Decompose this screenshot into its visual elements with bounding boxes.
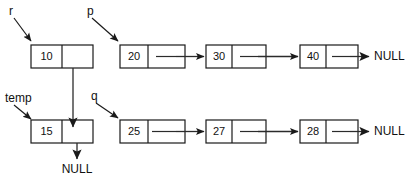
node-40-value: 40 — [307, 50, 319, 62]
node-30-value: 30 — [213, 50, 225, 62]
node-10: 10 — [31, 45, 93, 68]
bottom-null-label: NULL — [374, 124, 405, 138]
pointer-label-q: q — [91, 89, 98, 103]
node-15-value: 15 — [40, 125, 52, 137]
top-null-label: NULL — [374, 49, 405, 63]
node-20: 20 — [120, 45, 185, 68]
node-25-value: 25 — [128, 125, 140, 137]
diagram-canvas: 10 20 30 40 NULL — [0, 0, 413, 182]
node-20-value: 20 — [128, 50, 140, 62]
node-15: 15 — [31, 120, 93, 143]
node-25: 25 — [120, 120, 185, 143]
pointer-label-temp: temp — [5, 91, 32, 105]
node-27: 27 — [206, 120, 266, 143]
node-30: 30 — [206, 45, 266, 68]
node-28-value: 28 — [307, 125, 319, 137]
pointer-arrow-p — [92, 18, 118, 41]
pointer-label-r: r — [9, 4, 13, 18]
node-40: 40 — [300, 45, 358, 68]
linked-list-diagram: 10 20 30 40 NULL — [0, 0, 413, 182]
pointer-label-p: p — [87, 4, 94, 18]
node-27-value: 27 — [213, 125, 225, 137]
temp-null-label: NULL — [62, 162, 93, 176]
pointer-arrow-q — [96, 103, 118, 118]
node-10-value: 10 — [40, 50, 52, 62]
pointer-arrow-temp — [14, 105, 31, 119]
pointer-arrow-r — [14, 18, 31, 41]
node-28: 28 — [300, 120, 358, 143]
